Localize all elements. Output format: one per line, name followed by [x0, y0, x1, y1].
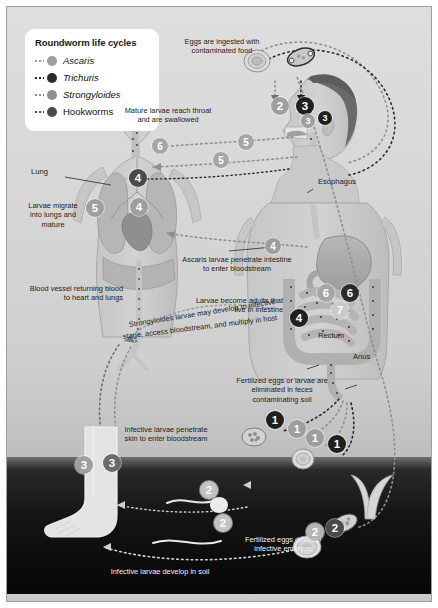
- note-esophagus: Esophagus: [318, 177, 378, 186]
- step-badge-3: 3: [296, 97, 314, 115]
- step-badge-5: 5: [213, 152, 229, 168]
- note-mature-larvae: Mature larvae reach throat and are swall…: [122, 106, 214, 125]
- note-larvae-migrate: Larvae migrate into lungs and mature: [25, 201, 81, 229]
- legend-dot-icon: [47, 90, 57, 100]
- step-badge-3: 3: [103, 454, 121, 472]
- step-badge-5: 5: [86, 199, 104, 217]
- note-blood-vessel: Blood vessel returning blood to heart an…: [27, 284, 123, 303]
- step-badge-2: 2: [200, 481, 218, 499]
- roundworm-lifecycle-figure: Roundworm life cycles Ascaris Trichuris …: [0, 0, 438, 608]
- note-fertilized-eliminated: Fertilized eggs or larvae are eliminated…: [228, 376, 336, 404]
- note-anus: Anus: [353, 352, 393, 361]
- step-badge-3: 3: [301, 114, 315, 128]
- step-badge-2: 2: [214, 514, 232, 532]
- step-badge-1: 1: [306, 429, 324, 447]
- step-badge-1: 1: [328, 435, 346, 453]
- legend-dot-icon: [47, 73, 57, 83]
- note-lung: Lung: [31, 167, 71, 176]
- figure-frame: Roundworm life cycles Ascaris Trichuris …: [6, 6, 432, 602]
- legend-dash-icon: [35, 77, 44, 79]
- step-badge-1: 1: [288, 420, 306, 438]
- step-badge-3: 3: [318, 111, 332, 125]
- legend-dash-icon: [35, 111, 44, 113]
- step-badge-3: 3: [75, 456, 93, 474]
- legend-item-ascaris: Ascaris: [35, 54, 150, 67]
- legend-label-hookworms: Hookworms: [63, 106, 113, 117]
- step-badge-4: 4: [130, 198, 148, 216]
- note-rectum: Rectum: [318, 331, 364, 340]
- step-badge-5: 5: [238, 134, 254, 150]
- note-ascaris-penetrate: Ascaris larvae penetrate intestine to en…: [182, 255, 292, 274]
- step-badge-1: 1: [266, 411, 284, 429]
- note-eggs-ingested: Eggs are ingested with contaminated food: [167, 37, 277, 56]
- legend-item-strongyloides: Strongyloides: [35, 88, 150, 101]
- step-badge-4: 4: [265, 238, 281, 254]
- deep-soil-background: [7, 527, 431, 602]
- legend-dot-icon: [47, 56, 57, 66]
- step-badge-4: 4: [290, 309, 308, 327]
- legend-label-strongyloides: Strongyloides: [63, 89, 121, 100]
- step-badge-2: 2: [271, 97, 289, 115]
- legend-title: Roundworm life cycles: [35, 37, 150, 48]
- legend-dash-icon: [35, 94, 44, 96]
- legend-label-trichuris: Trichuris: [63, 72, 99, 83]
- legend-dash-icon: [35, 60, 44, 62]
- note-infective-develop-soil: Infective larvae develop in soil: [85, 567, 235, 576]
- legend-dot-icon: [47, 107, 57, 117]
- bottom-border-strip: [7, 594, 431, 601]
- legend-item-trichuris: Trichuris: [35, 71, 150, 84]
- step-badge-7: 7: [331, 301, 349, 319]
- step-badge-6: 6: [317, 284, 335, 302]
- step-badge-4: 4: [129, 169, 147, 187]
- step-badge-6: 6: [341, 284, 359, 302]
- note-infective-penetrate: Infective larvae penetrate skin to enter…: [121, 425, 211, 444]
- step-badge-6: 6: [152, 138, 168, 154]
- legend-label-ascaris: Ascaris: [63, 55, 94, 66]
- step-badge-2: 2: [306, 523, 324, 541]
- step-badge-2: 2: [326, 519, 344, 537]
